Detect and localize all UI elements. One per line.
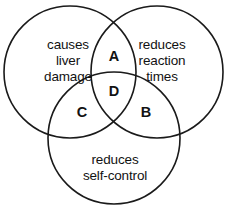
venn-circles-group xyxy=(0,0,225,208)
venn-diagram: causes liver damage reduces reaction tim… xyxy=(0,0,225,208)
